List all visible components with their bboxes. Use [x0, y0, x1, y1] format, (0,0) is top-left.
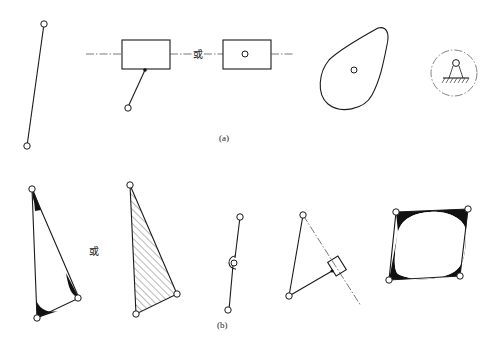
ternary-link-hatched	[127, 182, 180, 317]
pin-joint-icon	[465, 206, 471, 212]
ground-pivot-icon	[453, 60, 460, 67]
binary-link	[24, 21, 47, 149]
link-with-slider	[286, 212, 361, 306]
quaternary-link	[386, 206, 471, 283]
cam	[320, 28, 388, 110]
pin-joint-icon	[242, 51, 248, 57]
pin-joint-icon	[300, 212, 306, 218]
pin-joint-icon	[127, 182, 133, 188]
pin-joint-icon	[386, 277, 392, 283]
kinematic-symbols-diagram: 或 (a) 或	[0, 0, 497, 353]
pivot-icon	[351, 67, 357, 73]
pin-joint-icon	[237, 214, 243, 220]
or-label-b: 或	[89, 246, 99, 257]
ground-hatch-icon	[442, 78, 469, 83]
pin-joint-icon	[231, 260, 237, 266]
or-label-a: 或	[193, 49, 203, 60]
pin-joint-icon	[133, 311, 139, 317]
pin-joint-icon	[286, 293, 292, 299]
caption-a: (a)	[219, 133, 229, 143]
slider-block-icon	[328, 256, 347, 276]
pin-joint-icon	[75, 295, 81, 301]
pin-joint-icon	[125, 105, 131, 111]
pin-joint-icon	[34, 315, 40, 321]
slider-with-pin	[204, 40, 294, 69]
pin-joint-icon	[225, 307, 231, 313]
fixed-support	[431, 50, 477, 96]
pin-joint-icon	[29, 186, 35, 192]
pin-joint-icon	[174, 291, 180, 297]
pin-joint-icon	[24, 143, 30, 149]
slider-with-link	[86, 40, 192, 111]
pin-joint-icon	[393, 209, 399, 215]
pin-joint-icon	[457, 273, 463, 279]
caption-b: (b)	[217, 320, 228, 330]
link-with-middle-joint	[225, 214, 243, 313]
ternary-link-filled-corners	[29, 186, 81, 321]
pin-joint-icon	[41, 21, 47, 27]
